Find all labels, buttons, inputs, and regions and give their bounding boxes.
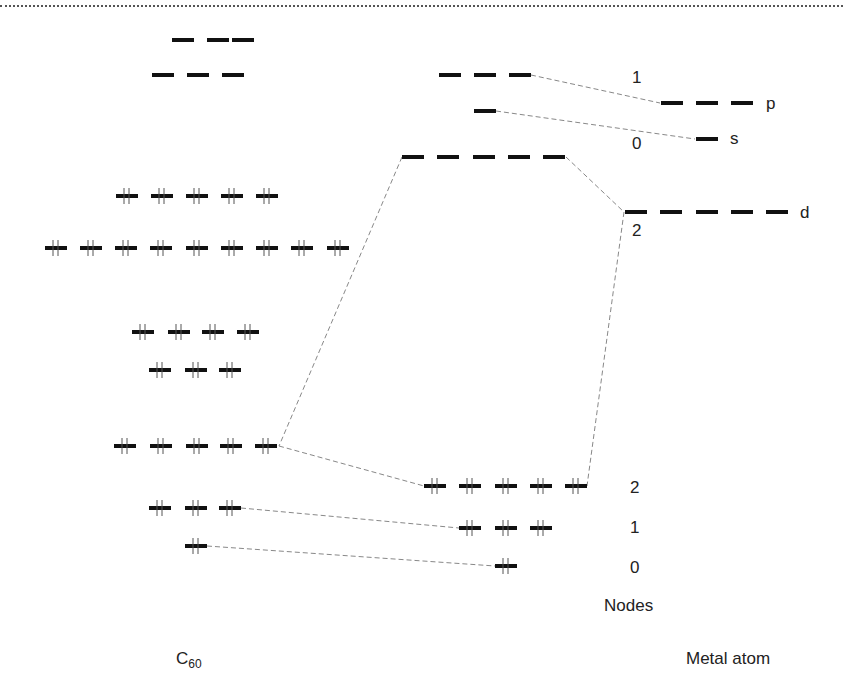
orbital-bar [402,155,424,159]
orbital-bar [660,210,682,214]
orbital-bar [495,564,517,568]
orbital-bar [168,330,190,334]
orbital-bar [45,246,67,250]
orbital-bar [530,484,552,488]
orbital-bar [185,506,207,510]
orbital-bar [220,444,242,448]
node-label-2-upper: 2 [632,222,641,239]
complex-energy-level [459,520,552,536]
metal-energy-level-p [661,101,753,105]
orbital-bar [132,330,154,334]
c60-subscript: 60 [188,657,201,671]
c60-energy-level [152,73,244,77]
orbital-bar [187,73,209,77]
orbital-bar [186,194,208,198]
correlation-line [241,508,459,528]
orbital-bar [474,109,496,113]
orbital-bar [473,155,495,159]
orbital-bar [221,194,243,198]
orbital-bar [509,73,531,77]
orbital-bar [172,38,194,42]
orbital-bar [116,194,138,198]
correlation-line [279,446,424,486]
orbital-bar [202,330,224,334]
orbital-bar [237,330,259,334]
metal-energy-level-d [625,210,788,214]
orbital-bar [625,210,647,214]
orbital-bar [255,444,277,448]
orbital-bar [731,101,753,105]
energy-level-diagram [0,0,843,676]
complex-energy-level [495,558,517,574]
orbital-bar [186,246,208,250]
orbital-bar [185,368,207,372]
orbital-bar [565,484,587,488]
orbital-bar [508,155,530,159]
node-label-0-upper: 0 [632,135,641,152]
metal-d-label: d [800,204,809,221]
orbital-bar [437,155,459,159]
orbital-bar [327,246,349,250]
complex-energy-level [424,478,587,494]
node-label-1-upper: 1 [632,69,641,86]
orbital-bar [543,155,565,159]
mo-diagram: 1 0 2 p s d 2 1 0 Nodes C60 Metal atom [0,0,843,676]
orbital-bar [696,210,718,214]
c60-energy-level [132,324,259,340]
node-label-2-lower: 2 [630,479,639,496]
metal-p-label: p [766,95,775,112]
orbital-bar [114,444,136,448]
c60-text: C [176,649,188,668]
nodes-axis-label: Nodes [604,597,653,614]
c60-energy-level [172,38,254,42]
orbital-bar [149,368,171,372]
orbital-bar [256,194,278,198]
correlation-line [496,111,695,139]
orbital-bar [207,38,229,42]
orbital-bar [661,101,683,105]
correlation-line [566,157,624,212]
metal-energy-level-s [696,137,718,141]
orbital-bar [219,506,241,510]
correlation-line [279,157,402,446]
orbital-bar [459,526,481,530]
orbital-bar [424,484,446,488]
complex-energy-level [474,109,496,113]
orbital-bar [696,101,718,105]
orbital-bar [731,210,753,214]
orbital-bar [530,526,552,530]
energy-levels [45,38,788,574]
correlation-line [207,546,495,566]
orbital-bar [219,368,241,372]
orbital-bar [256,246,278,250]
c60-energy-level [149,362,241,378]
orbital-bar [80,246,102,250]
c60-column-title: C60 [176,650,202,670]
c60-energy-level [149,500,241,516]
c60-energy-level [114,438,277,454]
orbital-bar [149,506,171,510]
orbital-bar [186,444,208,448]
orbital-bar [185,544,207,548]
metal-atom-column-title: Metal atom [686,650,770,667]
orbital-bar [495,484,517,488]
metal-s-label: s [730,130,739,147]
orbital-bar [474,73,496,77]
complex-energy-level [439,73,531,77]
orbital-bar [766,210,788,214]
orbital-bar [221,246,243,250]
orbital-bar [439,73,461,77]
correlation-lines [207,75,695,566]
orbital-bar [232,38,254,42]
node-label-0-lower: 0 [630,559,639,576]
orbital-bar [222,73,244,77]
orbital-bar [495,526,517,530]
orbital-bar [151,194,173,198]
orbital-bar [459,484,481,488]
c60-energy-level [116,188,278,204]
orbital-bar [150,444,172,448]
node-label-1-lower: 1 [630,519,639,536]
orbital-bar [152,73,174,77]
correlation-line [587,212,624,486]
complex-energy-level [402,155,565,159]
